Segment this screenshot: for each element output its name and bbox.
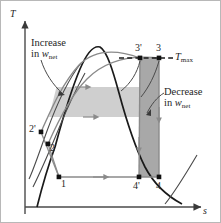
callout-increase-line1: Increase xyxy=(31,37,66,48)
callout-increase-subscript: net xyxy=(49,53,58,61)
point-marker-2prime xyxy=(39,130,44,135)
point-marker-4 xyxy=(157,175,162,180)
state-point-label-2: 2 xyxy=(50,143,55,154)
point-marker-3 xyxy=(157,56,162,61)
diagram-canvas xyxy=(1,1,221,223)
callout-increase-line2: in wnet xyxy=(31,48,66,61)
callout-increase: Increase in wnet xyxy=(31,37,66,61)
y-axis-label: T xyxy=(10,9,16,20)
callout-decrease-symbol: w xyxy=(175,97,182,108)
state-point-label-2prime: 2' xyxy=(29,124,36,135)
callout-decrease-line1: Decrease xyxy=(164,86,202,97)
callout-decrease: Decrease in wnet xyxy=(164,86,202,110)
callout-increase-symbol: w xyxy=(42,48,49,59)
state-point-label-1: 1 xyxy=(61,179,66,190)
point-marker-4prime xyxy=(137,175,142,180)
isobar-high-pressure-curve xyxy=(29,63,81,179)
state-point-label-4: 4 xyxy=(156,181,161,192)
state-point-label-3: 3 xyxy=(156,43,161,54)
callout-decrease-line2: in wnet xyxy=(164,97,202,110)
tmax-subscript: max xyxy=(181,56,193,64)
ts-diagram-figure: T s Tmax Increase in wnet Decrease in wn… xyxy=(0,0,221,223)
callout-decrease-subscript: net xyxy=(182,102,191,110)
state-point-label-4prime: 4' xyxy=(133,181,140,192)
callout-increase-prefix: in xyxy=(31,48,42,59)
state-point-label-3prime: 3' xyxy=(135,43,142,54)
point-marker-3prime xyxy=(138,56,143,61)
process-3prime-to-4prime xyxy=(139,58,140,177)
callout-decrease-prefix: in xyxy=(164,97,175,108)
tmax-label: Tmax xyxy=(175,51,193,64)
leader-3prime xyxy=(121,61,140,91)
x-axis-label: s xyxy=(203,206,207,217)
